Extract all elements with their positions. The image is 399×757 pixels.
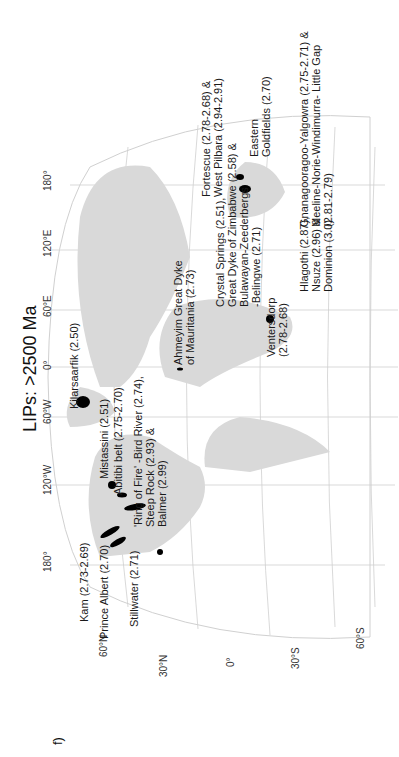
lat-label-30n: 30°N	[158, 655, 169, 677]
lat-label-30s: 30°S	[290, 647, 301, 669]
lip-label-ventersdorp-2: (2.78-2.68)	[277, 303, 289, 357]
lip-label-belingwe: -Belingwe (2.71)	[250, 227, 262, 307]
lip-label-hlagothi: Hlagothi (2.87),	[298, 217, 310, 292]
lon-label-180e: 180°	[42, 170, 53, 191]
lon-label-180w: 180°	[42, 551, 53, 572]
lip-label-steep-rock: Steep Rock (2.93) &	[144, 428, 156, 527]
lip-label-mistassini: Mistassini (2.51)	[98, 399, 110, 479]
lip-label-west-pilbara: West Pilbara (2.94-2.91)	[212, 78, 224, 197]
lip-label-bulawayan: Bulawayan-Zeederbergs	[238, 187, 250, 307]
lip-label-meeline: Meeline-Norie-Windimurra- Little Gap	[310, 45, 322, 227]
lip-label-eastern: Eastern	[248, 119, 260, 157]
lip-label-goldfields: Goldfields (2.70)	[260, 76, 272, 157]
lon-label-0: 0°	[42, 360, 53, 370]
lip-label-crystal-springs: Crystal Springs (2.51),	[214, 198, 226, 307]
figure-title: LIPs: >2500 Ma	[20, 305, 41, 432]
lip-label-balmer: Balmer (2.99)	[156, 460, 168, 527]
lon-label-120e: 120°E	[42, 230, 53, 257]
lat-label-eq: 0°	[225, 657, 236, 667]
rotated-map-figure: f) LIPs: >2500 Ma 180° 120°W 60°W 0° 60°…	[0, 0, 399, 757]
land	[67, 162, 330, 557]
lip-label-ring-of-fire: 'Ring of Fire' -Bird River (2.74),	[132, 376, 144, 527]
lip-label-fortescue: Fortescue (2.78-2.68) &	[200, 81, 212, 197]
lip-label-nsuze: Nsuze (2.96) &	[310, 219, 322, 292]
lip-label-meeline-age: (2.81-2.79)	[322, 173, 334, 227]
lon-label-120w: 120°W	[42, 465, 53, 495]
lip-label-kilarsaarfik: Kilarsaarfik (2.50)	[68, 323, 80, 409]
lip-label-dominion: Dominion (3.0)	[322, 220, 334, 292]
lip-label-stillwater: Stillwater (2.71)	[128, 551, 140, 627]
lon-label-60w: 60°W	[42, 399, 53, 424]
lip-label-ahmeyim-1: Ahmeyim Great Dyke	[172, 260, 184, 365]
lip-label-ventersdorp-1: Ventersdorp	[265, 298, 277, 357]
lip-label-great-dyke: Great Dyke of Zimbabwe (2.58) &	[226, 143, 238, 307]
south-america	[204, 417, 330, 472]
lip-label-abitibi: Abitibi belt (2.75-2.70)	[112, 387, 124, 495]
lip-label-kam: Kam (2.73-2.69)	[78, 543, 90, 622]
lip-label-ahmeyim-2: of Mauritania (2.73)	[184, 270, 196, 365]
panel-label: f)	[50, 737, 65, 745]
lip-label-gnanagooragoo: Gnanagooragoo-Yalgowra (2.75-2.71) &	[298, 32, 310, 227]
lat-label-60s: 60°S	[355, 627, 366, 649]
lip-label-prince-albert: Prince Albert (2.70)	[98, 545, 110, 639]
lon-label-60e: 60°E	[42, 295, 53, 317]
